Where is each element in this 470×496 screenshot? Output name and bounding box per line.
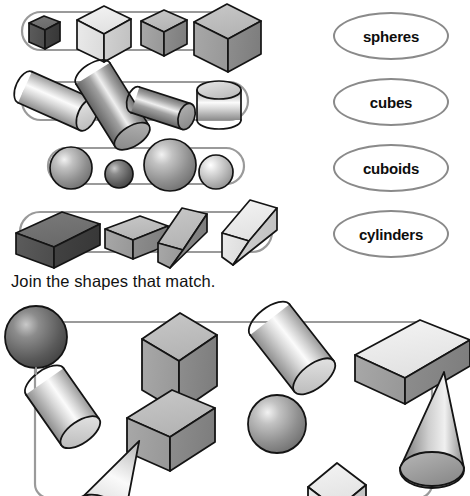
cuboid-dark-center — [127, 390, 215, 471]
cube-xlarge-mid — [194, 4, 261, 72]
cuboid-large-light — [222, 200, 277, 265]
sphere-small-dark — [105, 160, 133, 188]
sphere-large-mid — [50, 147, 92, 189]
cylinder-upright-can — [197, 81, 241, 129]
cylinder-tilted-topmid — [243, 295, 342, 401]
label-oval-spheres-text: spheres — [363, 28, 419, 45]
sphere-mid-center — [248, 395, 306, 453]
sphere-dark-topleft — [5, 306, 67, 368]
label-oval-spheres[interactable]: spheres — [333, 12, 449, 60]
row-cubes — [29, 4, 261, 72]
label-oval-cuboids-text: cuboids — [363, 160, 419, 177]
sphere-medium-lt — [199, 155, 233, 189]
instruction-text: Join the shapes that match. — [11, 272, 216, 291]
cuboid-tilted-mid — [158, 208, 207, 268]
cuboid-large-dark — [16, 212, 100, 268]
cube-large-light — [77, 6, 131, 62]
row-cuboids — [16, 200, 277, 268]
label-oval-cylinders[interactable]: cylinders — [333, 210, 449, 258]
cube-light-bottomcenter — [308, 463, 366, 496]
label-oval-cylinders-text: cylinders — [359, 226, 423, 243]
cube-small-dark — [29, 16, 60, 49]
label-oval-cubes-text: cubes — [370, 94, 412, 111]
label-oval-cubes[interactable]: cubes — [333, 78, 449, 126]
cuboid-light-topright — [355, 320, 470, 404]
label-oval-cuboids[interactable]: cuboids — [333, 144, 449, 192]
cylinder-tilted-left — [20, 359, 106, 454]
row-cylinders — [10, 54, 241, 155]
bottom-shapes — [5, 295, 470, 496]
worksheet-page: Join the shapes that match. spheres cube… — [0, 0, 470, 496]
sphere-xlarge-mid — [144, 139, 196, 191]
